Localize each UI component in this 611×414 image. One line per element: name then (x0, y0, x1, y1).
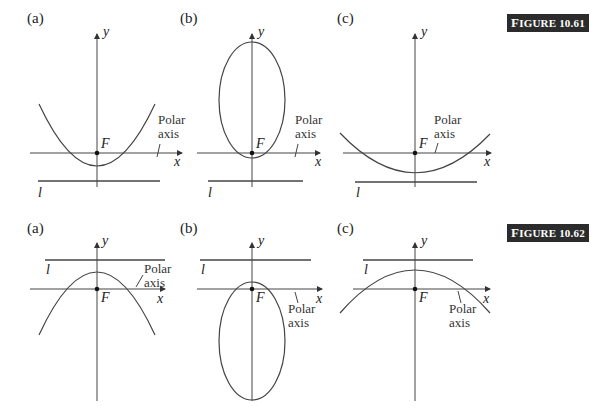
focus-label: F (101, 290, 110, 306)
x-axis-label: x (483, 291, 489, 307)
panel-tag: (c) (337, 10, 354, 27)
polar-axis-pointer (295, 144, 298, 157)
fig61-panel-c (340, 34, 491, 187)
x-axis-label: x (174, 154, 180, 170)
panel-tag: (c) (337, 220, 354, 237)
focus-point (413, 151, 418, 156)
directrix-label: l (38, 185, 42, 201)
polar-axis-pointer (435, 143, 438, 153)
polar-axis-label: Polaraxis (434, 113, 461, 141)
figure-label-10-62: FIGURE 10.62 (507, 224, 589, 242)
x-axis-label: x (484, 154, 490, 170)
panel-tag: (a) (27, 220, 44, 237)
focus-label: F (419, 136, 428, 152)
x-axis-label: x (157, 291, 163, 307)
focus-label: F (419, 290, 428, 306)
polar-axis-pointer (157, 144, 160, 157)
focus-label: F (256, 290, 265, 306)
conic-diagrams (0, 0, 611, 414)
polar-axis-label: Polaraxis (288, 302, 315, 330)
polar-axis-pointer (136, 275, 143, 287)
figure-label-10-61: FIGURE 10.61 (507, 14, 589, 32)
focus-point (95, 151, 100, 156)
polar-axis-label: Polaraxis (295, 113, 322, 141)
directrix-label: l (208, 185, 212, 201)
y-axis-label: y (421, 233, 427, 249)
fig61-panel-b (197, 34, 320, 187)
focus-point (250, 151, 255, 156)
directrix-label: l (46, 262, 50, 278)
focus-point (95, 287, 100, 292)
panel-tag: (b) (180, 220, 198, 237)
y-axis-label: y (421, 24, 427, 40)
polar-axis-label: Polaraxis (449, 302, 476, 330)
polar-axis-label: Polaraxis (144, 262, 171, 290)
directrix-label: l (201, 262, 205, 278)
panel-tag: (a) (27, 10, 44, 27)
x-axis-label: x (315, 154, 321, 170)
y-axis-label: y (258, 24, 264, 40)
fig61-panel-a (30, 34, 182, 187)
y-axis-label: y (103, 24, 109, 40)
x-axis-label: x (316, 291, 322, 307)
polar-axis-label: Polaraxis (158, 113, 185, 141)
focus-label: F (101, 136, 110, 152)
y-axis-label: y (258, 233, 264, 249)
focus-label: F (256, 136, 265, 152)
directrix-label: l (356, 185, 360, 201)
focus-point (250, 287, 255, 292)
focus-point (413, 287, 418, 292)
directrix-label: l (364, 262, 368, 278)
y-axis-label: y (102, 233, 108, 249)
panel-tag: (b) (180, 10, 198, 27)
